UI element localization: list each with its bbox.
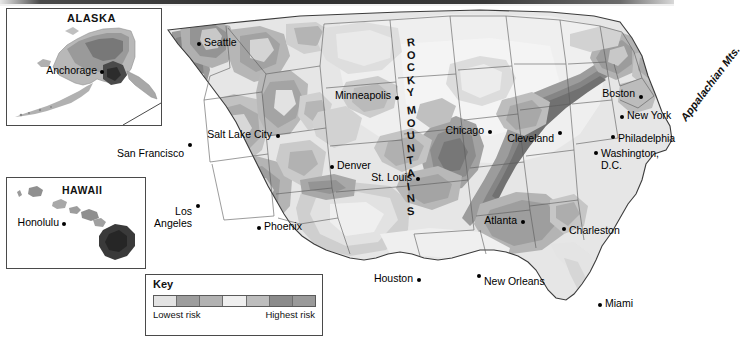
charleston-dot xyxy=(562,227,566,231)
city-label-atlanta: Atlanta xyxy=(452,215,517,227)
houston-dot xyxy=(417,278,421,282)
boston-dot xyxy=(639,95,643,99)
city-label-washington-dc: Washington, D.C. xyxy=(601,148,659,171)
hawaii-inset-title: HAWAII xyxy=(62,184,102,196)
city-label-boston: Boston xyxy=(571,88,635,100)
city-label-miami: Miami xyxy=(605,298,633,310)
los-angeles-dot xyxy=(196,204,200,208)
city-label-chicago: Chicago xyxy=(416,125,484,137)
city-label-new-orleans: New Orleans xyxy=(484,276,545,288)
washington-dc-dot xyxy=(594,151,598,155)
alaska-inset-title: ALASKA xyxy=(67,12,116,24)
atlanta-dot xyxy=(521,220,525,224)
city-label-anchorage: Anchorage xyxy=(19,65,97,77)
appalachian-mountains-label: Appalachian Mts. xyxy=(678,44,742,123)
city-label-charleston: Charleston xyxy=(569,225,620,237)
city-label-san-francisco: San Francisco xyxy=(104,148,184,160)
contiguous-us-map: ROCKYMOUNTAINS Appalachian Mts. Seattle … xyxy=(150,4,674,338)
city-label-seattle: Seattle xyxy=(204,37,237,49)
city-label-cleveland: Cleveland xyxy=(478,133,554,145)
honolulu-dot xyxy=(62,222,66,226)
city-label-st-louis: St. Louis xyxy=(342,172,412,184)
new-orleans-dot xyxy=(477,274,481,278)
minneapolis-dot xyxy=(395,96,399,100)
st-louis-dot xyxy=(416,177,420,181)
new-york-dot xyxy=(620,115,624,119)
city-label-philadelphia: Philadelphia xyxy=(618,133,675,145)
phoenix-dot xyxy=(257,226,261,230)
city-label-honolulu: Honolulu xyxy=(9,217,59,229)
city-label-los-angeles: Los Angeles xyxy=(114,206,192,229)
philadelphia-dot xyxy=(611,135,615,139)
seattle-dot xyxy=(197,42,201,46)
city-label-new-york: New York xyxy=(627,110,671,122)
salt-lake-city-dot xyxy=(276,134,280,138)
san-francisco-dot xyxy=(188,143,192,147)
rocky-mountains-label: ROCKYMOUNTAINS xyxy=(407,36,416,217)
city-label-phoenix: Phoenix xyxy=(264,221,302,233)
city-label-houston: Houston xyxy=(341,273,413,285)
denver-dot xyxy=(330,165,334,169)
alaska-inset: ALASKA Anchorage xyxy=(6,8,162,126)
city-label-salt-lake-city: Salt Lake City xyxy=(188,129,272,141)
cleveland-dot xyxy=(558,131,562,135)
miami-dot xyxy=(598,303,602,307)
city-label-minneapolis: Minneapolis xyxy=(305,90,391,102)
anchorage-dot xyxy=(100,70,104,74)
city-label-denver: Denver xyxy=(337,160,371,172)
